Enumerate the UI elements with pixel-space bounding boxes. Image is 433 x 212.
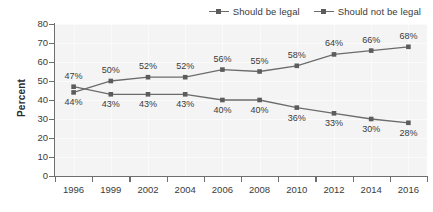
x-axis-tick bbox=[427, 177, 428, 182]
x-axis-tick-label: 2012 bbox=[314, 185, 354, 195]
x-axis-tick-label: 2010 bbox=[277, 185, 317, 195]
y-axis-tick-label: 50 bbox=[28, 76, 48, 86]
data-point-label: 36% bbox=[279, 114, 315, 123]
y-axis-tick bbox=[49, 119, 54, 120]
data-point-label: 33% bbox=[316, 119, 352, 128]
x-axis-tick-label: 1996 bbox=[54, 185, 94, 195]
y-axis-tick bbox=[49, 43, 54, 44]
gridline-vertical bbox=[371, 24, 372, 176]
line-chart: Should be legal Should not be legal Perc… bbox=[0, 0, 433, 212]
y-axis-tick bbox=[49, 157, 54, 158]
data-point-label: 58% bbox=[279, 51, 315, 60]
gridline-vertical bbox=[297, 24, 298, 176]
y-axis-tick-label: 20 bbox=[28, 133, 48, 143]
data-point-label: 64% bbox=[316, 39, 352, 48]
data-point-label: 66% bbox=[353, 36, 389, 45]
x-axis-tick-label: 2006 bbox=[202, 185, 242, 195]
x-axis-tick bbox=[92, 177, 93, 182]
y-axis-tick-label: 40 bbox=[28, 95, 48, 105]
data-point-label: 30% bbox=[353, 125, 389, 134]
gridline-vertical bbox=[408, 24, 409, 176]
x-axis-tick bbox=[390, 177, 391, 182]
data-point-label: 52% bbox=[130, 62, 166, 71]
data-point-label: 40% bbox=[242, 106, 278, 115]
data-point-label: 52% bbox=[167, 62, 203, 71]
y-axis-tick bbox=[49, 62, 54, 63]
data-point-label: 28% bbox=[390, 129, 426, 138]
y-axis-tick bbox=[49, 176, 54, 177]
plot-wrapper: Percent 01020304050607080 19961999200220… bbox=[0, 0, 433, 212]
y-axis-tick bbox=[49, 81, 54, 82]
y-axis-tick-label: 0 bbox=[28, 171, 48, 181]
y-axis-tick-label: 30 bbox=[28, 114, 48, 124]
gridline-vertical bbox=[222, 24, 223, 176]
x-axis-tick bbox=[241, 177, 242, 182]
x-axis-tick bbox=[167, 177, 168, 182]
y-axis-tick-label: 80 bbox=[28, 19, 48, 29]
data-point-label: 55% bbox=[242, 57, 278, 66]
data-point-label: 43% bbox=[130, 100, 166, 109]
x-axis-tick bbox=[278, 177, 279, 182]
x-axis-tick-label: 2014 bbox=[351, 185, 391, 195]
x-axis-tick-label: 2004 bbox=[165, 185, 205, 195]
x-axis-tick-label: 2002 bbox=[128, 185, 168, 195]
x-axis-tick bbox=[129, 177, 130, 182]
x-axis-tick bbox=[353, 177, 354, 182]
data-point-label: 68% bbox=[390, 32, 426, 41]
y-axis-tick-label: 70 bbox=[28, 38, 48, 48]
data-point-label: 43% bbox=[93, 100, 129, 109]
y-axis-tick bbox=[49, 100, 54, 101]
x-axis-tick bbox=[315, 177, 316, 182]
x-axis-tick-label: 2008 bbox=[240, 185, 280, 195]
x-axis-tick-label: 2016 bbox=[388, 185, 428, 195]
gridline-vertical bbox=[260, 24, 261, 176]
x-axis-tick bbox=[204, 177, 205, 182]
y-axis-tick bbox=[49, 24, 54, 25]
x-axis-tick bbox=[55, 177, 56, 182]
data-point-label: 50% bbox=[93, 66, 129, 75]
x-axis-tick-label: 1999 bbox=[91, 185, 131, 195]
data-point-label: 40% bbox=[204, 106, 240, 115]
y-axis-tick bbox=[49, 138, 54, 139]
data-point-label: 43% bbox=[167, 100, 203, 109]
y-axis-tick-label: 60 bbox=[28, 57, 48, 67]
data-point-label: 47% bbox=[56, 72, 92, 81]
data-point-label: 44% bbox=[56, 98, 92, 107]
y-axis-tick-label: 10 bbox=[28, 152, 48, 162]
data-point-label: 56% bbox=[204, 55, 240, 64]
